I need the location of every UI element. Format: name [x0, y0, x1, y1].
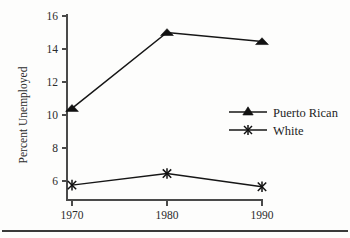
- legend: Puerto Rican White: [229, 106, 339, 138]
- legend-entry-white[interactable]: White: [229, 124, 304, 138]
- figure-container: Percent Unemployed 16 14 12 10 8 6 1970 …: [0, 0, 350, 238]
- y-tick-label-16: 16: [47, 10, 59, 22]
- y-tick-label-14: 14: [47, 43, 59, 55]
- x-tick-label-1970: 1970: [61, 209, 84, 221]
- legend-label-puerto-rican: Puerto Rican: [273, 106, 339, 120]
- y-tick-label-6: 6: [52, 175, 58, 187]
- y-tick-label-10: 10: [47, 109, 59, 121]
- line-chart: Percent Unemployed 16 14 12 10 8 6 1970 …: [0, 0, 350, 238]
- y-tick-label-8: 8: [52, 142, 58, 154]
- y-axis-title: Percent Unemployed: [17, 66, 30, 163]
- series-markers-puerto-rican: [66, 29, 269, 112]
- series-line-puerto-rican: [72, 33, 262, 109]
- triangle-up-icon: [243, 107, 253, 115]
- triangle-up-marker: [161, 29, 174, 36]
- legend-entry-puerto-rican[interactable]: Puerto Rican: [229, 106, 339, 120]
- series-markers-white: [68, 168, 266, 192]
- x-tick-label-1980: 1980: [156, 209, 179, 221]
- legend-label-white: White: [273, 124, 304, 138]
- y-tick-label-12: 12: [47, 76, 59, 88]
- x-tick-label-1990: 1990: [251, 209, 274, 221]
- data-point: [161, 29, 174, 36]
